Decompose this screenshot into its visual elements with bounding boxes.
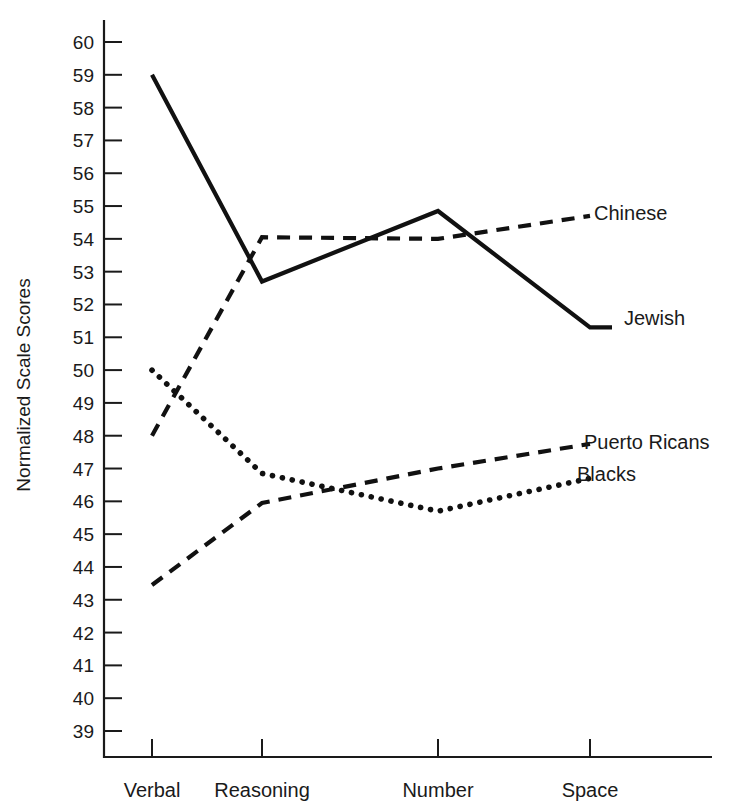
- y-tick-label: 55: [73, 196, 94, 217]
- y-tick-label: 40: [73, 688, 94, 709]
- axis-lines: [104, 20, 712, 757]
- y-tick-label: 48: [73, 426, 94, 447]
- x-tick-label-space: Space: [562, 779, 619, 801]
- series-label-puerto-ricans: Puerto Ricans: [584, 431, 710, 453]
- y-tick-label: 47: [73, 459, 94, 480]
- series-line-chinese: [152, 216, 590, 436]
- y-tick-label: 46: [73, 491, 94, 512]
- series-label-jewish: Jewish: [624, 307, 685, 329]
- y-tick-label: 42: [73, 623, 94, 644]
- y-tick-label: 41: [73, 655, 94, 676]
- series-line-jewish: [152, 75, 612, 328]
- y-tick-label: 54: [73, 229, 95, 250]
- y-tick-label: 53: [73, 262, 94, 283]
- series-group: [152, 75, 612, 585]
- chart-container: Normalized Scale Scores 6059585756555453…: [0, 0, 734, 810]
- y-tick-label: 49: [73, 393, 94, 414]
- y-tick-label: 43: [73, 590, 94, 611]
- y-tick-label: 52: [73, 294, 94, 315]
- line-chart: Normalized Scale Scores 6059585756555453…: [0, 0, 734, 810]
- y-tick-label: 39: [73, 721, 94, 742]
- y-tick-label: 56: [73, 163, 94, 184]
- y-tick-label: 59: [73, 65, 94, 86]
- x-tick-label-verbal: Verbal: [124, 779, 181, 801]
- series-label-chinese: Chinese: [594, 202, 667, 224]
- series-line-puerto-ricans: [152, 444, 590, 585]
- x-tick-label-reasoning: Reasoning: [214, 779, 310, 801]
- x-tick-label-number: Number: [402, 779, 473, 801]
- y-axis-title: Normalized Scale Scores: [13, 278, 34, 491]
- x-axis-ticks: VerbalReasoningNumberSpace: [124, 739, 619, 801]
- y-tick-label: 51: [73, 327, 94, 348]
- y-tick-label: 58: [73, 98, 94, 119]
- y-tick-label: 45: [73, 524, 94, 545]
- y-tick-label: 50: [73, 360, 94, 381]
- series-label-blacks: Blacks: [577, 463, 636, 485]
- series-line-blacks: [152, 370, 590, 511]
- y-tick-label: 44: [73, 557, 95, 578]
- y-axis-ticks: 6059585756555453525150494847464544434241…: [73, 32, 122, 742]
- y-tick-label: 57: [73, 130, 94, 151]
- y-tick-label: 60: [73, 32, 94, 53]
- series-labels: JewishChinesePuerto RicansBlacks: [577, 202, 710, 485]
